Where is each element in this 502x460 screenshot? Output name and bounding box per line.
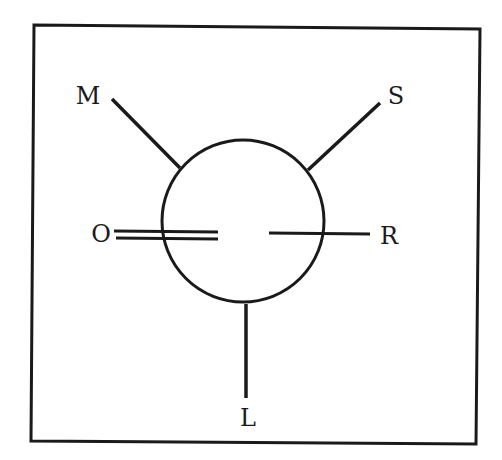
- label-o: O: [91, 220, 111, 248]
- double-bond-o-lower: [116, 238, 218, 239]
- double-bond-o-upper: [114, 231, 218, 232]
- label-s: S: [388, 82, 404, 110]
- bond-m: [112, 99, 180, 168]
- label-r: R: [380, 222, 399, 250]
- bond-r: [269, 233, 370, 234]
- label-l: L: [240, 404, 256, 432]
- back-carbon-circle: [162, 140, 324, 302]
- bond-s: [308, 103, 380, 170]
- label-m: M: [76, 82, 101, 110]
- newman-projection-diagram: M S O R L: [0, 0, 502, 460]
